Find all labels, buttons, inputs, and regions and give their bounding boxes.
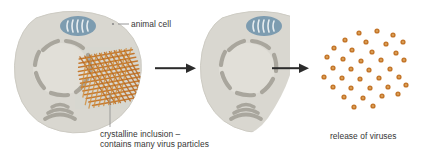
label-crystalline-line-2: contains many virus particles — [100, 139, 209, 149]
mitochondrion-2 — [246, 16, 282, 36]
label-crystalline-inclusion: crystalline inclusion – contains many vi… — [100, 129, 209, 149]
label-crystalline-line-1: crystalline inclusion – — [100, 129, 209, 139]
stage-infected-cell — [14, 11, 144, 133]
stage-lysing-cell — [200, 11, 327, 133]
label-release-of-viruses: release of viruses — [330, 131, 397, 141]
stage-free-viruses — [321, 28, 408, 109]
diagram-canvas: animal cell crystalline inclusion – cont… — [0, 0, 425, 162]
mitochondrion — [60, 16, 96, 36]
arrow-1 — [155, 64, 196, 73]
label-animal-cell: animal cell — [131, 19, 171, 29]
virus-particle-cluster — [321, 28, 408, 109]
